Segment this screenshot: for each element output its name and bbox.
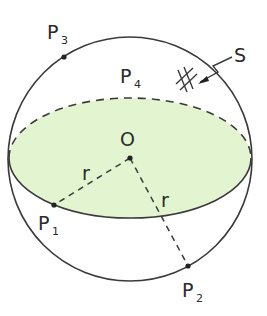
label-p2-sub: 2 — [196, 292, 203, 305]
label-p3: P — [47, 21, 58, 43]
label-p1-sub: 1 — [52, 225, 59, 238]
label-radius-1: r — [82, 162, 90, 184]
label-surface: S — [234, 44, 246, 66]
label-p4-sub: 4 — [134, 78, 141, 91]
label-p4: P — [120, 65, 131, 87]
point-p1 — [51, 202, 56, 207]
label-center: O — [120, 128, 135, 150]
center-point — [127, 155, 132, 160]
label-p2: P — [182, 279, 193, 301]
label-p3-sub: 3 — [61, 34, 68, 47]
arrow-head-icon — [198, 76, 209, 84]
label-radius-2: r — [161, 189, 169, 211]
label-p1: P — [38, 212, 49, 234]
point-p3 — [61, 54, 66, 59]
sphere-diagram: O r r P 1 P 2 P 3 P 4 S — [0, 0, 267, 316]
sphere-svg: O r r P 1 P 2 P 3 P 4 S — [0, 0, 267, 316]
point-p2 — [185, 263, 190, 268]
